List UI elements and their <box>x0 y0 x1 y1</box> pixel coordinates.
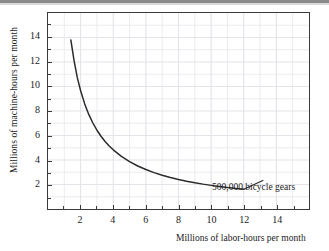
y-tick <box>47 86 52 87</box>
x-tick <box>146 205 147 210</box>
x-tick <box>244 205 245 210</box>
y-tick-label: 6 <box>18 129 40 140</box>
x-tick <box>113 205 114 210</box>
y-tick-label: 10 <box>18 79 40 90</box>
x-tick-label: 14 <box>265 214 289 225</box>
x-tick-label: 8 <box>167 214 191 225</box>
x-tick <box>294 206 295 210</box>
plot-area <box>47 12 310 210</box>
x-axis-title: Millions of labor-hours per month <box>176 233 306 243</box>
x-tick <box>179 205 180 210</box>
y-tick <box>47 161 52 162</box>
x-tick <box>129 206 130 210</box>
curve-annotation-label: 500,000 bicycle gears <box>212 182 295 192</box>
y-tick <box>47 74 51 75</box>
y-tick <box>47 99 51 100</box>
x-tick-label: 6 <box>134 214 158 225</box>
y-tick <box>47 173 51 174</box>
x-tick <box>261 206 262 210</box>
y-tick-label: 2 <box>18 178 40 189</box>
x-tick-label: 4 <box>101 214 125 225</box>
x-tick <box>195 206 196 210</box>
y-tick-label: 4 <box>18 154 40 165</box>
x-tick <box>211 205 212 210</box>
y-tick <box>47 148 51 149</box>
y-tick-label: 14 <box>18 30 40 41</box>
y-tick-label: 12 <box>18 55 40 66</box>
y-tick <box>47 37 52 38</box>
y-tick <box>47 24 51 25</box>
x-tick <box>162 206 163 210</box>
isoquant-curve-layer <box>48 13 309 209</box>
x-tick <box>63 206 64 210</box>
x-tick <box>228 206 229 210</box>
y-tick-label: 8 <box>18 104 40 115</box>
isoquant-curve <box>71 40 244 189</box>
y-tick <box>47 198 51 199</box>
x-tick <box>277 205 278 210</box>
x-tick-label: 2 <box>68 214 92 225</box>
x-tick <box>80 205 81 210</box>
x-tick-label: 12 <box>232 214 256 225</box>
y-tick <box>47 185 52 186</box>
y-tick <box>47 136 52 137</box>
y-tick <box>47 62 52 63</box>
isoquant-chart-figure: Millions of machine-hours per month Mill… <box>0 0 329 251</box>
y-tick <box>47 123 51 124</box>
x-tick-label: 10 <box>199 214 223 225</box>
scan-artifact-band-fade <box>0 3 329 5</box>
y-tick <box>47 111 52 112</box>
x-tick <box>96 206 97 210</box>
y-tick <box>47 49 51 50</box>
